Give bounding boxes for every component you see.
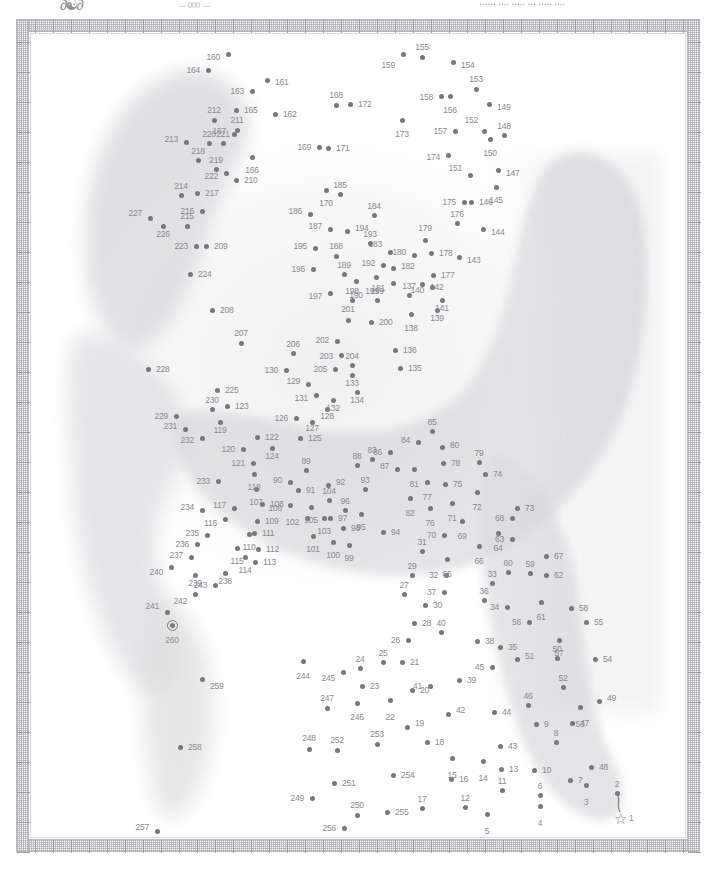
dot-point[interactable] <box>273 112 278 117</box>
dot-point[interactable] <box>256 547 261 552</box>
dot-point[interactable] <box>226 52 231 57</box>
dot-point[interactable] <box>347 543 352 548</box>
dot-point[interactable] <box>221 141 226 146</box>
dot-point[interactable] <box>326 146 331 151</box>
dot-point[interactable] <box>439 94 444 99</box>
dot-point[interactable] <box>350 373 355 378</box>
dot-point[interactable] <box>578 705 583 710</box>
dot-point[interactable] <box>252 531 257 536</box>
dot-point[interactable] <box>538 804 543 809</box>
dot-point[interactable] <box>498 645 503 650</box>
dot-point[interactable] <box>557 638 562 643</box>
dot-point[interactable] <box>597 699 602 704</box>
dot-point[interactable] <box>468 173 473 178</box>
dot-point[interactable] <box>420 282 425 287</box>
dot-point[interactable] <box>369 320 374 325</box>
dot-point[interactable] <box>174 414 179 419</box>
dot-point[interactable] <box>195 191 200 196</box>
dot-point[interactable] <box>391 281 396 286</box>
dot-point[interactable] <box>381 660 386 665</box>
dot-point[interactable] <box>561 685 566 690</box>
dot-point[interactable] <box>374 275 379 280</box>
dot-point[interactable] <box>402 592 407 597</box>
dot-point[interactable] <box>322 516 327 521</box>
dot-point[interactable] <box>296 488 301 493</box>
dot-point[interactable] <box>498 744 503 749</box>
dot-point[interactable] <box>428 684 433 689</box>
dot-point[interactable] <box>395 467 400 472</box>
dot-point[interactable] <box>375 742 380 747</box>
dot-point[interactable] <box>260 502 265 507</box>
dot-point[interactable] <box>481 227 486 232</box>
dot-point[interactable] <box>420 55 425 60</box>
dot-point[interactable] <box>334 103 339 108</box>
dot-point[interactable] <box>355 390 360 395</box>
dot-point[interactable] <box>338 192 343 197</box>
dot-point[interactable] <box>481 759 486 764</box>
dot-point[interactable] <box>457 678 462 683</box>
dot-point[interactable] <box>393 348 398 353</box>
dot-point[interactable] <box>179 193 184 198</box>
dot-point[interactable] <box>475 490 480 495</box>
dot-point[interactable] <box>441 461 446 466</box>
dot-point[interactable] <box>487 102 492 107</box>
dot-point[interactable] <box>232 506 237 511</box>
dot-point[interactable] <box>448 94 453 99</box>
dot-point[interactable] <box>539 600 544 605</box>
dot-point[interactable] <box>334 254 339 259</box>
dot-point[interactable] <box>196 158 201 163</box>
dot-point[interactable] <box>235 128 240 133</box>
dot-point[interactable] <box>184 140 189 145</box>
dot-point[interactable] <box>420 549 425 554</box>
dot-point[interactable] <box>506 570 511 575</box>
dot-point[interactable] <box>450 756 455 761</box>
dot-point[interactable] <box>335 339 340 344</box>
dot-point[interactable] <box>405 725 410 730</box>
dot-point[interactable] <box>193 573 198 578</box>
dot-point[interactable] <box>185 224 190 229</box>
dot-point[interactable] <box>477 460 482 465</box>
dot-point[interactable] <box>345 229 350 234</box>
dot-point[interactable] <box>372 213 377 218</box>
dot-point[interactable] <box>463 805 468 810</box>
dot-point[interactable] <box>429 251 434 256</box>
dot-point[interactable] <box>252 472 257 477</box>
dot-point[interactable] <box>247 532 252 537</box>
dot-point[interactable] <box>200 436 205 441</box>
dot-point[interactable] <box>430 429 435 434</box>
dot-point[interactable] <box>310 796 315 801</box>
dot-point[interactable] <box>341 526 346 531</box>
dot-point[interactable] <box>223 517 228 522</box>
dot-point[interactable] <box>212 118 217 123</box>
dot-point[interactable] <box>354 279 359 284</box>
dot-point[interactable] <box>534 722 539 727</box>
dot-point[interactable] <box>408 496 413 501</box>
dot-point[interactable] <box>482 598 487 603</box>
dot-point[interactable] <box>440 445 445 450</box>
dot-point[interactable] <box>538 793 543 798</box>
dot-point[interactable] <box>304 468 309 473</box>
dot-point[interactable] <box>308 212 313 217</box>
dot-point[interactable] <box>527 620 532 625</box>
dot-point[interactable] <box>200 508 205 513</box>
dot-point[interactable] <box>204 244 209 249</box>
dot-point[interactable] <box>391 773 396 778</box>
dot-point[interactable] <box>515 506 520 511</box>
dot-point[interactable] <box>155 829 160 834</box>
dot-point[interactable] <box>223 571 228 576</box>
dot-point[interactable] <box>194 244 199 249</box>
dot-point[interactable] <box>294 416 299 421</box>
dot-point[interactable] <box>309 505 314 510</box>
dot-point[interactable] <box>445 557 450 562</box>
dot-point[interactable] <box>615 791 620 796</box>
dot-point[interactable] <box>255 435 260 440</box>
dot-point[interactable] <box>314 393 319 398</box>
dot-point[interactable] <box>425 740 430 745</box>
dot-point[interactable] <box>401 52 406 57</box>
dot-point[interactable] <box>363 487 368 492</box>
dot-point[interactable] <box>460 519 465 524</box>
dot-point[interactable] <box>200 677 205 682</box>
dot-point[interactable] <box>301 659 306 664</box>
dot-point[interactable] <box>494 185 499 190</box>
dot-point[interactable] <box>477 544 482 549</box>
